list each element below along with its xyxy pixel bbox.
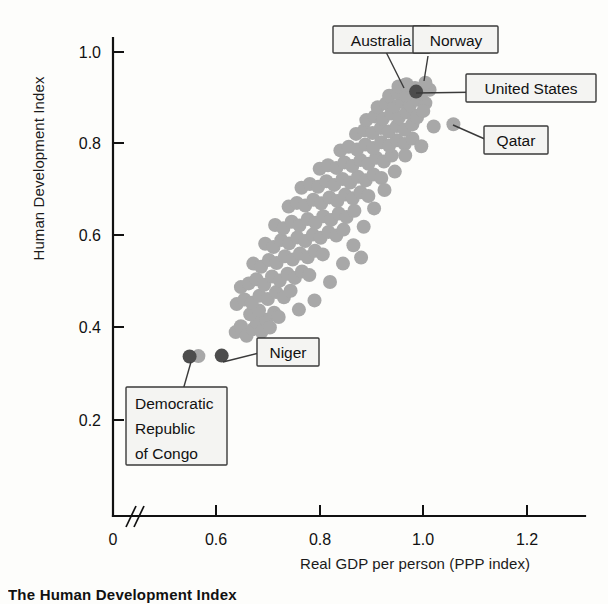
data-point: [336, 257, 350, 271]
x-tick-marks: [216, 505, 527, 516]
y-tick-label-2: 0.8: [79, 135, 101, 152]
x-tick-label-08: 0.8: [309, 531, 331, 548]
data-point: [346, 238, 360, 252]
callout-qatar-label: Qatar: [497, 132, 536, 149]
callout-niger-label: Niger: [269, 344, 306, 361]
data-point-qatar[interactable]: [446, 117, 460, 131]
callout-democratic-republic-of-congo[interactable]: Democratic Republic of Congo: [126, 387, 227, 465]
data-point: [357, 220, 371, 234]
data-point-democratic-republic-of-congo[interactable]: [183, 350, 197, 364]
x-tick-label-10: 1.0: [412, 531, 434, 548]
callout-drc-label-line1: Democratic: [135, 395, 214, 412]
callout-australia-label: Australia: [351, 32, 412, 49]
data-point: [374, 171, 388, 185]
data-point: [367, 201, 381, 215]
data-point: [316, 247, 330, 261]
data-point: [272, 310, 286, 324]
callout-norway[interactable]: Norway: [413, 26, 498, 53]
x-tick-label-0: 0: [109, 531, 118, 548]
data-point: [292, 303, 306, 317]
y-tick-label-4: 0.4: [79, 319, 101, 336]
data-point: [308, 293, 322, 307]
data-point: [378, 183, 392, 197]
scatter-plot: 1.0 0.8 0.6 0.4 0.2 0 0.6 0.8 1.0 1.2: [0, 0, 608, 604]
data-point: [354, 251, 368, 265]
callout-united-states[interactable]: United States: [466, 74, 596, 102]
x-tick-label-06: 0.6: [205, 531, 227, 548]
data-point: [284, 284, 298, 298]
data-point-united-states[interactable]: [409, 85, 423, 99]
data-point: [337, 223, 351, 237]
callout-norway-label: Norway: [430, 32, 483, 49]
callout-drc-label-line2: Republic: [135, 420, 196, 437]
data-point: [347, 204, 361, 218]
x-axis-title: Real GDP per person (PPP index): [300, 555, 590, 572]
data-points-layer: [183, 76, 461, 364]
y-tick-label-3: 0.6: [79, 227, 101, 244]
data-point: [416, 104, 430, 118]
data-point: [414, 139, 428, 153]
y-tick-label-5: 0.2: [79, 412, 101, 429]
data-point: [323, 275, 337, 289]
y-tick-marks: [113, 52, 124, 420]
y-axis-title: Human Development Index: [30, 39, 47, 299]
callout-drc-label-line3: of Congo: [135, 445, 198, 462]
data-point: [398, 149, 412, 163]
figure-caption: The Human Development Index: [8, 586, 237, 603]
callout-qatar[interactable]: Qatar: [484, 126, 548, 154]
y-tick-label-1: 1.0: [79, 44, 101, 61]
data-point: [361, 189, 375, 203]
data-point: [388, 165, 402, 179]
callout-niger[interactable]: Niger: [257, 338, 319, 366]
data-point: [427, 120, 441, 134]
x-tick-label-12: 1.2: [516, 531, 538, 548]
data-point: [302, 268, 316, 282]
callout-united-states-label: United States: [484, 80, 577, 97]
figure-container: 1.0 0.8 0.6 0.4 0.2 0 0.6 0.8 1.0 1.2: [0, 0, 608, 604]
